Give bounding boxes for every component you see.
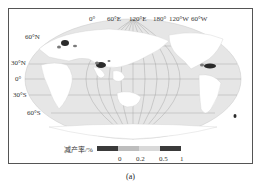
lat-label-60s: 60°S (27, 109, 41, 117)
legend-title: 减产率/% (64, 144, 93, 154)
legend-seg-2 (118, 146, 139, 151)
legend-seg-3 (139, 146, 160, 151)
lon-label-0: 0° (89, 15, 95, 23)
lon-label-60e: 60°E (107, 15, 121, 23)
lat-label-0: 0° (15, 75, 21, 83)
lon-label-120e: 120°E (129, 15, 147, 23)
figure-caption: (a) (0, 172, 261, 181)
legend-tick-0-2: 0.2 (136, 155, 145, 163)
lon-label-120w: 120°W (169, 15, 189, 23)
legend-tick-0: 0 (118, 155, 122, 163)
legend-tick-0-5: 0.5 (159, 155, 168, 163)
legend-seg-1 (97, 146, 118, 151)
legend-seg-4 (160, 146, 181, 151)
lon-label-180: 180° (153, 15, 166, 23)
world-map (9, 9, 252, 163)
lat-label-30n: 30°N (11, 59, 26, 67)
legend-tick-1: 1 (180, 155, 184, 163)
map-frame: 0° 60°E 120°E 180° 120°W 60°W 60°N 30°N … (8, 8, 253, 164)
lat-label-60n: 60°N (25, 33, 40, 41)
lat-label-30s: 30°S (13, 91, 27, 99)
legend-colorbar (97, 146, 181, 151)
lon-label-60w: 60°W (191, 15, 207, 23)
